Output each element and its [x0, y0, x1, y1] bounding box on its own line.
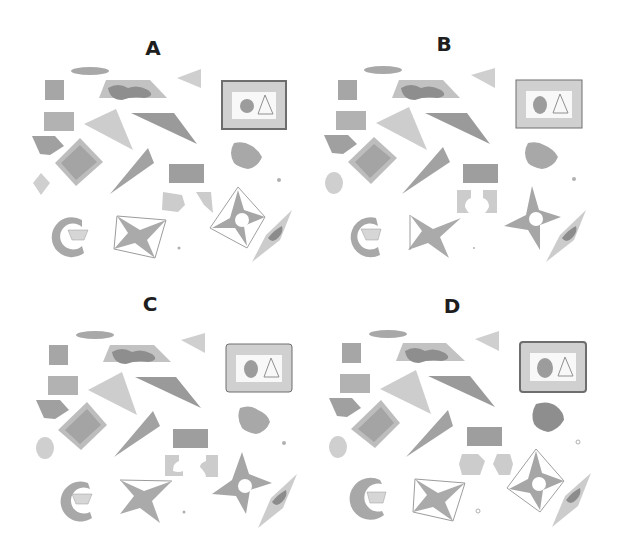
notched-square-right: [483, 190, 497, 213]
four-point-star-shape: [413, 479, 465, 521]
quadrilateral-shape: [88, 372, 137, 415]
circle-in-frame: [537, 358, 553, 378]
dark-triangle-shape: [406, 410, 453, 457]
panel-b: B: [310, 0, 610, 270]
dot-shape: [277, 178, 281, 182]
notched-square-left: [457, 190, 471, 213]
dot-shape-2: [178, 247, 181, 250]
dark-triangle-shape: [110, 148, 154, 194]
square-shape: [338, 80, 357, 100]
pentagon-shape: [329, 398, 361, 417]
notched-square-right: [200, 455, 218, 477]
ellipse-shape: [369, 330, 407, 338]
star-hole: [529, 212, 543, 226]
pentagon-shape: [32, 136, 64, 155]
dot-shape-2: [476, 509, 480, 513]
small-oval-shape: [329, 436, 347, 458]
pentagon-shape: [324, 135, 357, 154]
small-diamond-shape: [33, 173, 50, 195]
star-partial-outline: [120, 480, 172, 481]
dot-shape-2: [473, 247, 475, 249]
irregular-blob-shape: [231, 142, 262, 169]
long-quad-shape: [428, 376, 495, 407]
shape-set-b: [310, 0, 620, 280]
shape-set-c: [0, 280, 310, 557]
circle-in-frame: [244, 360, 258, 378]
ellipse-shape: [71, 67, 109, 75]
c-inner-trapezoid: [361, 229, 381, 240]
four-point-star-shape: [114, 216, 166, 258]
notched-square-right: [196, 192, 213, 213]
long-quad-shape: [135, 377, 201, 408]
irregular-blob-shape: [532, 402, 564, 432]
rectangle-shape: [48, 376, 78, 395]
hexagon-left: [459, 454, 485, 475]
textured-rect-shape: [173, 429, 208, 448]
square-shape: [45, 80, 64, 100]
c-inner-trapezoid: [68, 230, 88, 240]
shape-set-d: [310, 280, 620, 557]
rectangle-shape: [44, 112, 74, 131]
rectangle-shape: [340, 374, 370, 393]
circle-in-frame: [240, 99, 254, 113]
dot-shape: [576, 440, 580, 444]
four-point-star-shape: [408, 215, 461, 258]
small-oval-shape: [36, 437, 54, 459]
dark-triangle-shape: [114, 411, 160, 457]
small-triangle-shape: [177, 69, 201, 88]
dot-shape: [282, 441, 286, 445]
small-triangle-shape: [181, 333, 205, 353]
hexagon-right: [493, 454, 513, 475]
ellipse-shape: [364, 66, 402, 74]
pentagon-shape: [36, 400, 69, 419]
small-oval-shape: [325, 172, 343, 194]
dot-shape: [572, 177, 576, 181]
rectangle-shape: [336, 111, 366, 130]
c-inner-trapezoid: [72, 494, 92, 504]
irregular-blob-shape: [238, 406, 270, 434]
panel-d: D: [310, 280, 610, 550]
small-triangle-shape: [475, 331, 499, 351]
square-shape: [49, 345, 68, 365]
shape-set-a: [0, 0, 310, 280]
long-quad-shape: [425, 113, 490, 144]
textured-rect-shape: [463, 164, 498, 183]
dark-triangle-shape: [402, 147, 450, 194]
quadrilateral-shape: [376, 107, 427, 150]
star-hole: [532, 477, 546, 491]
quadrilateral-shape: [84, 109, 133, 150]
four-point-star-shape: [120, 480, 172, 523]
picture-frame-inner: [526, 91, 572, 118]
quadrilateral-shape: [380, 370, 431, 414]
notched-square-left: [165, 455, 183, 476]
dot-shape-2: [183, 511, 186, 514]
panel-a: A: [0, 0, 300, 270]
small-triangle-shape: [471, 68, 495, 88]
star-hole: [238, 479, 252, 493]
long-quad-shape: [131, 113, 197, 144]
irregular-blob-shape: [525, 142, 558, 169]
panel-c: C: [0, 280, 300, 550]
circle-in-frame: [533, 96, 547, 114]
c-inner-trapezoid: [367, 492, 386, 503]
textured-rect-shape: [467, 427, 502, 446]
ellipse-shape: [76, 331, 114, 339]
square-shape: [342, 343, 361, 363]
star-hole: [235, 213, 249, 227]
textured-rect-shape: [169, 164, 204, 183]
notched-square-left: [162, 192, 185, 212]
